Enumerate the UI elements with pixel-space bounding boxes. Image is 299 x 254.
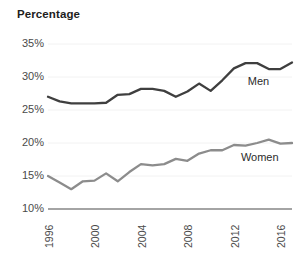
series-label-men: Men bbox=[248, 75, 269, 87]
x-axis: 199620002004200820122016 bbox=[0, 0, 299, 254]
x-axis-tick-label: 2008 bbox=[182, 225, 194, 248]
x-axis-tick-label: 2012 bbox=[229, 225, 241, 248]
x-axis-tick-label: 2016 bbox=[275, 225, 287, 248]
chart-container: Percentage 35%30%25%20%15%10% 1996200020… bbox=[0, 0, 299, 254]
series-label-women: Women bbox=[241, 151, 279, 163]
x-axis-tick-label: 2000 bbox=[89, 225, 101, 248]
x-axis-tick-label: 1996 bbox=[43, 225, 55, 248]
x-axis-tick-label: 2004 bbox=[136, 225, 148, 248]
